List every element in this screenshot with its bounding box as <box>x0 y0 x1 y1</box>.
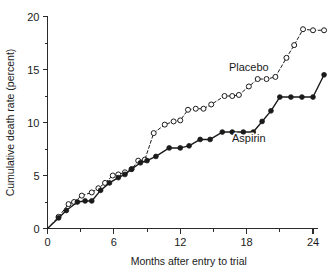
data-point <box>322 72 327 77</box>
data-point <box>129 167 134 172</box>
data-point <box>269 108 274 113</box>
x-axis-title: Months after entry to trial <box>131 255 247 267</box>
data-point <box>300 95 305 100</box>
data-point <box>201 106 206 111</box>
y-axis-title: Cumulative death rate (percent) <box>4 49 16 197</box>
data-point <box>145 158 150 163</box>
data-point <box>107 181 112 186</box>
data-point <box>178 146 183 151</box>
data-point <box>89 199 94 204</box>
data-point <box>264 77 269 82</box>
x-tick-label: 24 <box>307 236 319 248</box>
data-point <box>64 208 69 213</box>
data-point <box>311 95 316 100</box>
y-tick-label: 10 <box>27 117 39 129</box>
series-label-placebo: Placebo <box>229 61 269 73</box>
data-point <box>162 122 167 127</box>
data-point <box>187 143 192 148</box>
data-point <box>123 172 128 177</box>
data-point <box>292 43 297 48</box>
data-point <box>209 102 214 107</box>
series-placebo <box>48 27 327 229</box>
series-line <box>48 75 325 229</box>
data-point <box>138 160 143 165</box>
series-line <box>48 29 325 228</box>
data-point <box>98 188 103 193</box>
x-tick-label: 12 <box>174 236 186 248</box>
data-point <box>277 95 282 100</box>
chart-canvas: 0510152006121824Months after entry to tr… <box>0 0 331 279</box>
data-point <box>66 202 71 207</box>
y-tick-label: 0 <box>33 223 39 235</box>
x-tick-label: 0 <box>44 236 50 248</box>
data-point <box>273 74 278 79</box>
data-point <box>208 137 213 142</box>
data-point <box>255 77 260 82</box>
data-point <box>311 28 316 33</box>
data-point <box>116 175 121 180</box>
data-point <box>322 28 327 33</box>
series-label-aspirin: Aspirin <box>232 132 266 144</box>
series-aspirin <box>48 72 327 228</box>
data-point <box>83 199 88 204</box>
data-point <box>56 216 61 221</box>
y-tick-label: 5 <box>33 170 39 182</box>
y-axis: 05101520 <box>27 11 47 235</box>
y-tick-label: 20 <box>27 11 39 23</box>
axis-spines <box>48 17 319 229</box>
data-point <box>222 94 227 99</box>
data-point <box>260 119 265 124</box>
x-tick-label: 6 <box>111 236 117 248</box>
data-point <box>284 55 289 60</box>
data-point <box>89 190 94 195</box>
data-point <box>246 84 251 89</box>
data-point <box>301 27 306 32</box>
data-point <box>198 137 203 142</box>
data-point <box>167 146 172 151</box>
x-tick-label: 18 <box>241 236 253 248</box>
data-point <box>220 130 225 135</box>
data-point <box>193 106 198 111</box>
data-point <box>79 193 84 198</box>
y-tick-label: 15 <box>27 64 39 76</box>
data-point <box>178 118 183 123</box>
data-point <box>185 107 190 112</box>
data-point <box>288 95 293 100</box>
data-point <box>171 119 176 124</box>
data-point <box>151 131 156 136</box>
data-point <box>154 154 159 159</box>
chart-figure: 0510152006121824Months after entry to tr… <box>0 0 331 279</box>
data-point <box>75 200 80 205</box>
x-axis: 06121824 <box>44 229 319 248</box>
data-point <box>236 92 241 97</box>
data-point <box>230 94 235 99</box>
data-point <box>110 173 115 178</box>
